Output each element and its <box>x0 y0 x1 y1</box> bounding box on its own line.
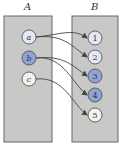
svg-text:3: 3 <box>92 72 97 81</box>
svg-text:a: a <box>27 33 32 42</box>
element-1: 1 <box>88 31 102 45</box>
element-3: 3 <box>88 69 102 83</box>
element-c: c <box>22 72 36 86</box>
svg-text:c: c <box>27 75 32 84</box>
svg-text:1: 1 <box>92 34 97 43</box>
svg-text:2: 2 <box>92 53 97 62</box>
element-2: 2 <box>88 50 102 64</box>
element-a: a <box>22 30 36 44</box>
svg-text:4: 4 <box>92 91 97 100</box>
element-5: 5 <box>88 108 102 122</box>
mapping-diagram: abc12345 <box>0 0 122 144</box>
element-4: 4 <box>88 88 102 102</box>
svg-text:5: 5 <box>92 111 97 120</box>
svg-text:b: b <box>26 54 31 63</box>
element-b: b <box>22 51 36 65</box>
